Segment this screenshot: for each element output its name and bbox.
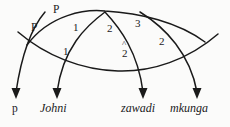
node-label-p-upper: P [53,4,59,16]
node-label-three: 3 [135,18,141,29]
leaf-label-johni: Johni [40,102,67,114]
leaf-label-zawadi: zawadi [121,102,155,114]
arrowhead-mkunga [193,88,202,99]
node-label-one-lower: 1 [63,46,69,57]
curve-to-mkunga [140,12,197,92]
node-label-one-upper: 1 [73,22,79,33]
arrowhead-p [12,88,21,99]
node-label-two-right: 2 [159,36,165,47]
arrowhead-group [12,88,202,99]
diagram-canvas: P P 1 2 3 2 1 2 ^ p Johni zawadi mkunga [0,0,230,127]
arc-upper [27,11,205,45]
arrowhead-johni [53,88,62,99]
leaf-label-mkunga: mkunga [170,102,208,114]
node-label-two-hat: 2 [122,48,128,59]
node-label-two-upper: 2 [107,23,113,34]
arc-group [18,11,218,71]
leaf-label-p: p [12,103,18,115]
hat-diacritic-mark: ^ [122,40,126,49]
node-label-p-lower: P [31,22,37,34]
arrowhead-zawadi [139,88,148,99]
